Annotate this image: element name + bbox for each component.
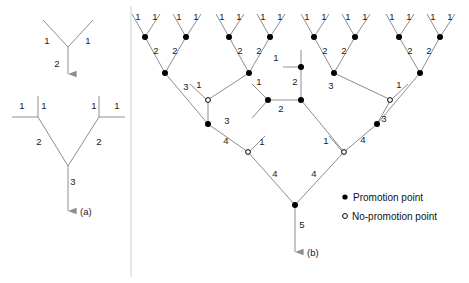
edge-label-b-l3-2: 3 xyxy=(328,80,333,91)
no-promotion-point-2 xyxy=(246,150,251,155)
edge-label-a-bottom-4: 2 xyxy=(36,136,41,147)
edge-label-b-l4-0: 4 xyxy=(223,135,228,146)
edge-label-b-l4-2: 4 xyxy=(311,168,316,179)
edge-label-b-l1-4: 1 xyxy=(219,11,224,22)
panel-b-level2-labels: 22222222 xyxy=(153,45,431,56)
promotion-point-2 xyxy=(226,34,232,40)
panel-a-bottom-tree xyxy=(12,96,125,211)
edge-l4-right-to-root xyxy=(295,152,344,205)
promotion-point-3 xyxy=(267,34,273,40)
edge-label-b-l1-15: 1 xyxy=(447,11,452,22)
panel-a-top-tree xyxy=(43,20,93,74)
promotion-point-12 xyxy=(205,121,211,127)
edge-label-b-l1-3: 1 xyxy=(193,11,198,22)
edge-label-b-l1-2: 1 xyxy=(176,11,181,22)
edge-label-a-bottom-6: 3 xyxy=(70,176,75,187)
edge-label-b-l1-5: 1 xyxy=(236,11,241,22)
promotion-point-16 xyxy=(265,97,271,103)
edge-label-b-l1-8: 1 xyxy=(304,11,309,22)
promotion-point-0 xyxy=(142,34,148,40)
edge-label-b-l3-0: 3 xyxy=(183,81,188,92)
edge-label-a-bottom-0: 1 xyxy=(19,100,24,111)
legend-no-promotion-label: No-promotion point xyxy=(352,211,437,222)
edge-label-b-l1-12: 1 xyxy=(389,11,394,22)
promotion-point-14 xyxy=(292,202,298,208)
promotion-point-nodes xyxy=(142,34,443,208)
promotion-point-8 xyxy=(162,70,168,76)
promotion-point-15 xyxy=(298,64,304,70)
promotion-point-13 xyxy=(374,121,380,127)
edge-label-b-mid-0: 1 xyxy=(273,52,278,63)
spur-l4-right xyxy=(329,136,342,151)
edge-label-b-l2-3: 2 xyxy=(256,45,261,56)
panel-b-root-label: 5 xyxy=(299,219,304,230)
edge-label-a-top-1: 1 xyxy=(85,35,90,46)
legend-promotion-label: Promotion point xyxy=(353,192,423,203)
edge-label-b-mid-1: 1 xyxy=(256,76,261,87)
edge-label-a-top-2: 2 xyxy=(54,58,59,69)
edge-label-b-l1-11: 1 xyxy=(362,11,367,22)
edge-a-bot-diag-left xyxy=(38,117,68,166)
promotion-point-11 xyxy=(417,70,423,76)
no-promotion-point-0 xyxy=(206,98,211,103)
edge-label-b-l2-5: 2 xyxy=(341,45,346,56)
panel-b-level1-labels: 1111111111111111 xyxy=(135,11,452,22)
edge-label-b-l1-9: 1 xyxy=(321,11,326,22)
edge-label-b-mid-3: 2 xyxy=(278,103,283,114)
edge-label-b-root-0: 5 xyxy=(299,219,304,230)
edge-label-a-top-0: 1 xyxy=(44,35,49,46)
edge-label-b-l1-0: 1 xyxy=(135,11,140,22)
edge-label-b-l2-4: 2 xyxy=(322,45,327,56)
edge-label-b-l1-10: 1 xyxy=(345,11,350,22)
panel-b-level3-labels: 3333 xyxy=(183,80,386,126)
edge-label-b-l4-1: 4 xyxy=(272,168,277,179)
edge-label-b-l1-6: 1 xyxy=(260,11,265,22)
edge-label-b-spur-1: 1 xyxy=(259,136,264,147)
panel-b-caption: (b) xyxy=(307,247,319,258)
edge-label-b-l3-3: 3 xyxy=(381,113,386,124)
promotion-point-9 xyxy=(246,70,252,76)
edge-label-b-l4-3: 4 xyxy=(360,134,365,145)
edge-label-a-bottom-2: 1 xyxy=(91,100,96,111)
edge-l3-mid-right xyxy=(334,73,389,99)
promotion-point-10 xyxy=(331,70,337,76)
panel-b-level4-labels: 4444 xyxy=(223,134,365,179)
panel-b-mid-subtree-labels: 1122 xyxy=(256,52,297,114)
edge-label-b-l3-1: 3 xyxy=(224,115,229,126)
panel-a-bottom-edge-labels: 1111223 xyxy=(19,100,119,187)
no-promotion-point-nodes xyxy=(206,98,393,155)
no-promotion-point-1 xyxy=(388,98,393,103)
promotion-point-5 xyxy=(352,34,358,40)
edge-label-a-bottom-1: 1 xyxy=(41,100,46,111)
promotion-point-17 xyxy=(298,97,304,103)
edge-label-b-l1-7: 1 xyxy=(277,11,282,22)
figure-container: 112 1111223 1111111111111111 22222222 33… xyxy=(0,0,469,283)
promotion-point-7 xyxy=(437,34,443,40)
edge-label-a-bottom-5: 2 xyxy=(96,136,101,147)
edge-label-b-l2-6: 2 xyxy=(407,45,412,56)
edge-label-b-spur-0: 1 xyxy=(196,79,201,90)
no-promotion-point-3 xyxy=(342,150,347,155)
edge-a-bot-diag-right xyxy=(68,117,99,166)
edge-l3-mid-left xyxy=(209,73,249,99)
edge-label-b-mid-2: 2 xyxy=(292,76,297,87)
promotion-point-1 xyxy=(183,34,189,40)
edge-label-b-l1-14: 1 xyxy=(430,11,435,22)
legend-filled-dot-icon xyxy=(342,194,347,199)
edge-label-a-bottom-3: 1 xyxy=(114,100,119,111)
edge-label-b-l2-0: 2 xyxy=(153,45,158,56)
edge-label-b-l1-1: 1 xyxy=(152,11,157,22)
edge-label-b-l1-13: 1 xyxy=(406,11,411,22)
promotion-point-6 xyxy=(396,34,402,40)
edge-label-b-spur-3: 1 xyxy=(396,79,401,90)
legend: Promotion point No-promotion point xyxy=(342,192,437,222)
edge-label-b-l2-1: 2 xyxy=(172,45,177,56)
edge-label-b-l2-7: 2 xyxy=(426,45,431,56)
branching-process-figure: 112 1111223 1111111111111111 22222222 33… xyxy=(0,0,469,283)
legend-open-dot-icon xyxy=(343,214,348,219)
panel-a-caption: (a) xyxy=(80,206,92,217)
mid-spur-down xyxy=(252,100,268,118)
promotion-point-4 xyxy=(311,34,317,40)
edge-label-b-l2-2: 2 xyxy=(237,45,242,56)
edge-label-b-spur-2: 1 xyxy=(323,135,328,146)
